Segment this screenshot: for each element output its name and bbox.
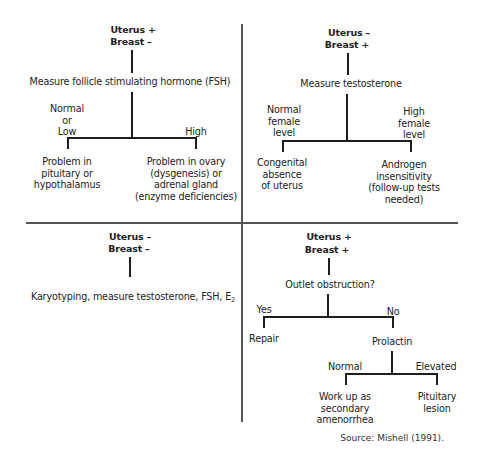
- outcome-pituitary-hypothalamus: Problem in pituitary or hypothalamus: [34, 156, 101, 191]
- branch-bar: [67, 137, 197, 139]
- connector-line: [328, 258, 330, 275]
- branch-label-normal-female-level: Normal female level: [267, 104, 301, 139]
- branch-label-yes: Yes: [256, 304, 271, 316]
- branch-label-high-female-level: High female level: [398, 106, 430, 141]
- amenorrhea-diagnostic-flowchart: Uterus + Breast – Measure follicle stimu…: [0, 0, 481, 456]
- test-node: Outlet obstruction?: [285, 279, 374, 291]
- branch-label-no: No: [387, 306, 400, 318]
- outcome-secondary-amenorrhea: Work up as secondary amenorrhea: [317, 391, 374, 426]
- condition-breast: Breast –: [108, 243, 149, 255]
- outcome-pituitary-lesion: Pituitary lesion: [418, 391, 457, 414]
- test-node: Measure follicle stimulating hormone (FS…: [30, 76, 231, 88]
- branch-drop-right: [410, 140, 412, 152]
- branch-bar: [282, 140, 412, 142]
- connector-line: [327, 294, 329, 317]
- source-citation: Source: Mishell (1991).: [340, 433, 444, 444]
- branch-drop-right: [392, 316, 394, 328]
- condition-breast: Breast +: [325, 39, 369, 51]
- outcome-congenital-absence: Congenital absence of uterus: [257, 157, 307, 192]
- node-prolactin: Prolactin: [372, 336, 412, 348]
- connector-line: [131, 50, 133, 73]
- connector-line: [129, 257, 131, 277]
- branch-drop-right: [436, 373, 438, 385]
- outcome-repair: Repair: [249, 333, 279, 345]
- horizontal-quadrant-divider: [26, 222, 458, 224]
- branch-drop-left: [67, 137, 69, 149]
- outcome-androgen-insensitivity: Androgen insensitivity (follow-up tests …: [366, 159, 443, 205]
- test-node: Measure testosterone: [300, 78, 401, 90]
- branch-label-high: High: [185, 126, 206, 138]
- branch-drop-left: [263, 316, 265, 328]
- connector-line: [391, 351, 393, 374]
- connector-line: [346, 94, 348, 141]
- outcome-ovary-adrenal: Problem in ovary (dysgenesis) or adrenal…: [135, 156, 237, 202]
- branch-label-normal: Normal: [328, 361, 362, 373]
- condition-breast: Breast –: [110, 36, 151, 48]
- test-node: Karyotyping, measure testosterone, FSH, …: [31, 291, 235, 303]
- branch-drop-left: [282, 140, 284, 152]
- branch-bar: [345, 373, 438, 375]
- branch-label-elevated: Elevated: [416, 361, 457, 373]
- branch-label-normal-or-low: Normal or Low: [50, 103, 84, 138]
- branch-drop-left: [345, 373, 347, 385]
- test-text: Karyotyping, measure testosterone, FSH, …: [31, 291, 231, 302]
- condition-uterus: Uterus +: [306, 231, 351, 243]
- condition-uterus: Uterus –: [328, 27, 370, 39]
- test-subscript: 2: [231, 296, 235, 304]
- connector-line: [131, 92, 133, 139]
- branch-drop-right: [195, 137, 197, 149]
- condition-breast: Breast +: [305, 244, 349, 256]
- connector-line: [347, 53, 349, 75]
- condition-uterus: Uterus +: [110, 24, 155, 36]
- branch-bar: [263, 316, 394, 318]
- condition-uterus: Uterus –: [109, 231, 151, 243]
